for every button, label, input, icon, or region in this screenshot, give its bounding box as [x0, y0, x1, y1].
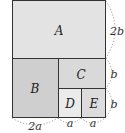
dim-right-top: 2b [110, 25, 124, 38]
dim-bottom-right: a [90, 117, 97, 130]
dimension-arcs [0, 0, 125, 132]
dim-right-bottom: b [110, 98, 117, 111]
dim-bottom-left: 2a [28, 120, 42, 133]
dim-bottom-mid: a [67, 117, 74, 130]
dim-right-mid: b [110, 68, 117, 81]
